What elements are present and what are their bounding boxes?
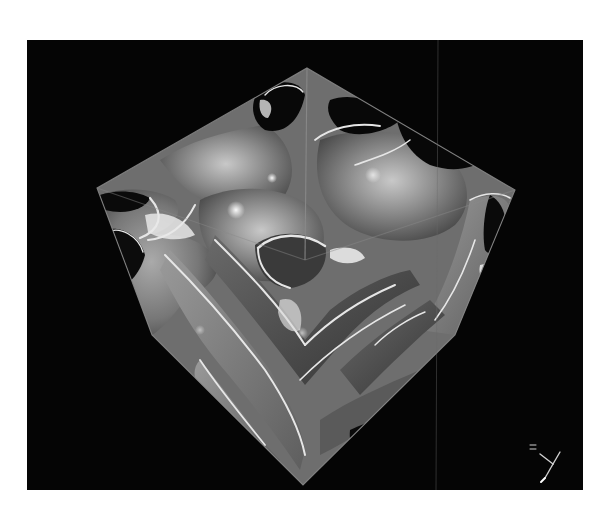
figure bbox=[0, 0, 611, 514]
isosurface-render bbox=[0, 0, 611, 514]
